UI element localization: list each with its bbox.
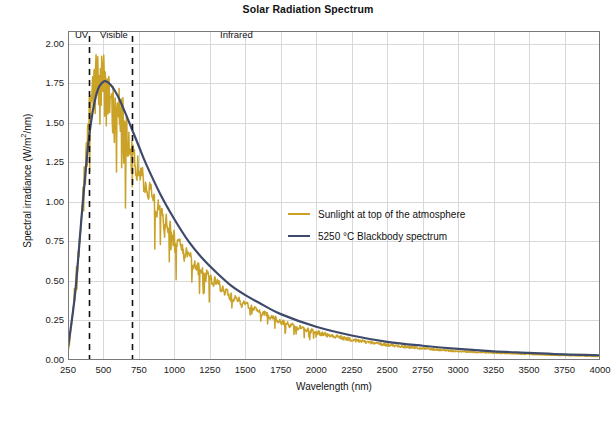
y-tick-label: 0.75 <box>30 236 64 246</box>
legend-label-blackbody: 5250 °C Blackbody spectrum <box>318 231 447 242</box>
legend-label-sunlight: Sunlight at top of the atmosphere <box>318 209 465 220</box>
y-axis-title-superscript: 2 <box>19 134 28 138</box>
y-axis-title: Spectral irradiance (W/m2/nm) <box>19 71 32 291</box>
y-tick-label: 1.75 <box>30 78 64 88</box>
band-label-infrared: Infrared <box>220 29 253 40</box>
y-tick-label: 0.25 <box>30 315 64 325</box>
plot-area: UV Visible Infrared Sunlight at top of t… <box>68 31 600 360</box>
y-tick-label: 1.00 <box>30 197 64 207</box>
y-axis-title-prefix: Spectral irradiance (W/m <box>22 138 33 248</box>
figure-container: Solar Radiation Spectrum UV Visible Infr… <box>0 0 616 423</box>
x-axis-title: Wavelength (nm) <box>68 381 600 392</box>
chart-svg <box>68 31 600 360</box>
y-tick-label: 0.50 <box>30 276 64 286</box>
y-axis-title-suffix: /nm) <box>22 114 33 134</box>
chart-title: Solar Radiation Spectrum <box>0 3 616 15</box>
legend-item-sunlight: Sunlight at top of the atmosphere <box>288 203 518 225</box>
legend-swatch-blackbody <box>288 235 310 237</box>
x-axis-tick-labels: 2505007501000125015001750200022502500275… <box>68 364 600 380</box>
y-tick-label: 2.00 <box>30 39 64 49</box>
band-label-visible: Visible <box>100 29 128 40</box>
legend-item-blackbody: 5250 °C Blackbody spectrum <box>288 225 518 247</box>
y-tick-label: 1.50 <box>30 118 64 128</box>
x-tick-label: 4000 <box>578 364 616 375</box>
y-tick-label: 1.25 <box>30 157 64 167</box>
legend: Sunlight at top of the atmosphere 5250 °… <box>288 203 518 247</box>
band-label-uv: UV <box>75 29 88 40</box>
legend-swatch-sunlight <box>288 213 310 215</box>
